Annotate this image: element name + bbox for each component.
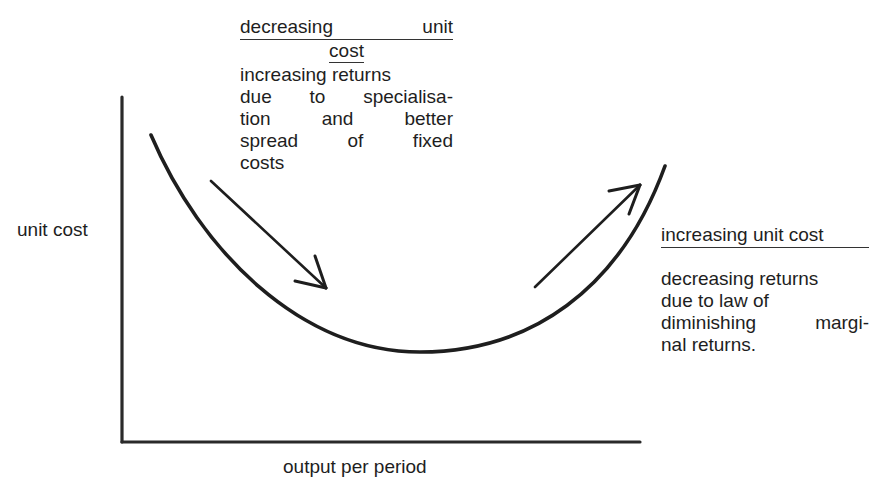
annotation-line: tion and better	[240, 108, 453, 130]
decreasing-cost-annotation: decreasing unit cost increasing returns …	[240, 16, 453, 174]
annotation-heading: increasing unit cost	[661, 224, 869, 248]
annotation-line: costs	[240, 152, 453, 174]
annotation-line: nal returns.	[661, 334, 869, 356]
annotation-heading: decreasing unit	[240, 16, 453, 40]
annotation-heading-cont: cost	[240, 40, 453, 62]
annotation-line: increasing returns	[240, 64, 453, 86]
annotation-body: decreasing returns due to law of diminis…	[661, 268, 869, 356]
upward-arrow-icon	[535, 185, 640, 287]
annotation-body: increasing returns due to specialisa- ti…	[240, 64, 453, 174]
annotation-line: decreasing returns	[661, 268, 869, 290]
downward-arrow-icon	[211, 181, 326, 288]
increasing-cost-annotation: increasing unit cost decreasing returns …	[661, 224, 869, 356]
y-axis-label: unit cost	[17, 219, 88, 241]
annotation-heading-word: cost	[329, 40, 364, 63]
annotation-line: due to law of	[661, 290, 869, 312]
annotation-line: due to specialisa-	[240, 86, 453, 108]
annotation-line: spread of fixed	[240, 130, 453, 152]
x-axis-label: output per period	[283, 456, 427, 478]
annotation-line: diminishing margi-	[661, 312, 869, 334]
